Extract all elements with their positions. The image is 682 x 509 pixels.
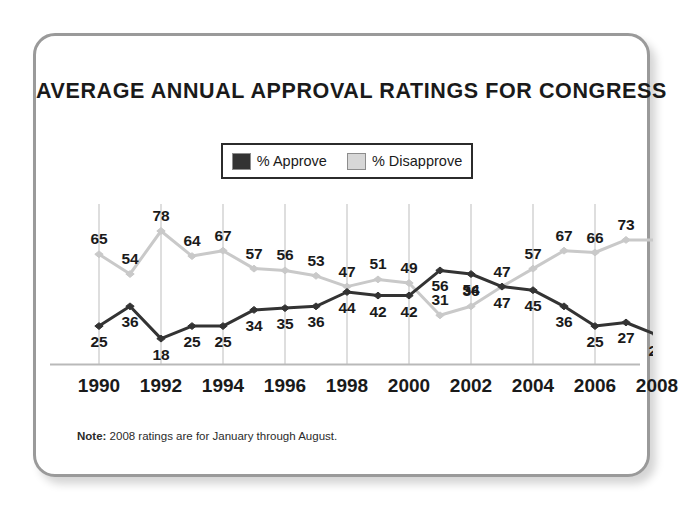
value-label-approve: 20 bbox=[648, 342, 653, 359]
value-label-approve: 18 bbox=[152, 346, 170, 363]
line-chart-plot: 6554786467575653475149313647576766732536… bbox=[36, 198, 653, 370]
legend-label-approve: % Approve bbox=[257, 153, 327, 169]
value-label-disapprove: 49 bbox=[400, 259, 418, 276]
value-label-approve: 36 bbox=[307, 313, 325, 330]
legend-label-disapprove: % Disapprove bbox=[372, 153, 462, 169]
value-label-approve: 25 bbox=[90, 333, 108, 350]
data-point-marker bbox=[281, 305, 289, 312]
value-label-disapprove: 67 bbox=[214, 227, 231, 244]
chart-svg: 6554786467575653475149313647576766732536… bbox=[36, 198, 653, 370]
value-label-approve: 25 bbox=[183, 333, 201, 350]
chart-card: AVERAGE ANNUAL APPROVAL RATINGS FOR CONG… bbox=[33, 33, 650, 477]
value-label-approve: 44 bbox=[338, 299, 356, 316]
chart-note: Note: 2008 ratings are for January throu… bbox=[77, 430, 337, 442]
value-label-disapprove: 73 bbox=[617, 216, 635, 233]
x-axis-tick-2008: 2008 bbox=[636, 375, 678, 397]
value-label-disapprove: 51 bbox=[369, 255, 387, 272]
x-axis-tick-1996: 1996 bbox=[264, 375, 306, 397]
note-text: 2008 ratings are for January through Aug… bbox=[106, 430, 337, 442]
legend-item-disapprove: % Disapprove bbox=[347, 153, 462, 170]
value-label-approve: 45 bbox=[524, 297, 542, 314]
value-label-disapprove: 56 bbox=[276, 246, 294, 263]
value-label-approve: 56 bbox=[431, 277, 449, 294]
legend-item-approve: % Approve bbox=[232, 153, 327, 170]
legend-swatch-approve-icon bbox=[232, 153, 251, 170]
value-label-disapprove: 67 bbox=[555, 227, 572, 244]
x-axis-tick-1990: 1990 bbox=[78, 375, 120, 397]
value-label-approve: 42 bbox=[400, 303, 417, 320]
data-point-marker bbox=[374, 292, 382, 299]
value-label-approve: 36 bbox=[121, 313, 139, 330]
x-axis: 1990199219941996199820002002200420062008 bbox=[36, 375, 653, 401]
value-label-approve: 42 bbox=[369, 303, 386, 320]
value-label-approve: 54 bbox=[462, 281, 480, 298]
x-axis-tick-2000: 2000 bbox=[388, 375, 430, 397]
x-axis-tick-2002: 2002 bbox=[450, 375, 492, 397]
value-label-approve: 27 bbox=[617, 329, 634, 346]
legend-swatch-disapprove-icon bbox=[347, 153, 366, 170]
value-label-approve: 47 bbox=[493, 294, 510, 311]
data-point-marker bbox=[374, 276, 382, 283]
screenshot-root: AVERAGE ANNUAL APPROVAL RATINGS FOR CONG… bbox=[0, 0, 682, 509]
chart-legend: % Approve % Disapprove bbox=[221, 143, 473, 179]
x-axis-tick-2004: 2004 bbox=[512, 375, 554, 397]
value-label-disapprove: 65 bbox=[90, 230, 108, 247]
value-label-approve: 25 bbox=[214, 333, 232, 350]
value-label-approve: 36 bbox=[555, 313, 573, 330]
x-axis-tick-2006: 2006 bbox=[574, 375, 616, 397]
value-label-approve: 34 bbox=[245, 317, 263, 334]
value-label-disapprove: 66 bbox=[586, 229, 604, 246]
value-label-disapprove: 53 bbox=[307, 252, 325, 269]
value-label-disapprove: 78 bbox=[152, 207, 170, 224]
note-prefix: Note: bbox=[77, 430, 106, 442]
x-axis-tick-1992: 1992 bbox=[140, 375, 182, 397]
value-label-disapprove: 57 bbox=[245, 245, 262, 262]
value-label-approve: 25 bbox=[586, 333, 604, 350]
value-label-approve: 35 bbox=[276, 315, 294, 332]
value-label-disapprove: 64 bbox=[183, 232, 201, 249]
value-label-disapprove: 47 bbox=[338, 263, 355, 280]
value-label-disapprove: 54 bbox=[121, 250, 139, 267]
value-label-disapprove: 47 bbox=[493, 263, 510, 280]
page-title: AVERAGE ANNUAL APPROVAL RATINGS FOR CONG… bbox=[36, 79, 653, 104]
x-axis-tick-1994: 1994 bbox=[202, 375, 244, 397]
value-label-disapprove: 57 bbox=[524, 245, 541, 262]
data-point-marker bbox=[281, 267, 289, 274]
x-axis-tick-1998: 1998 bbox=[326, 375, 368, 397]
